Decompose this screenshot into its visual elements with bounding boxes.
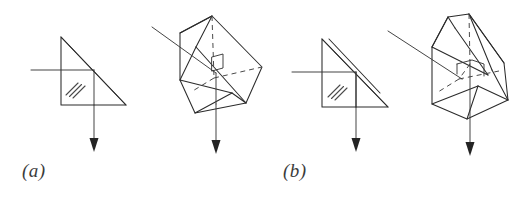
prism-b-hypotenuse	[322, 39, 388, 107]
prism-b-3d-roof-face-edge	[455, 28, 488, 75]
prism-a-3d-left-face-edge	[180, 47, 196, 80]
prism-b-3d-hidden-vertical	[469, 14, 470, 64]
prism-b-3d-ridge-front	[448, 17, 455, 28]
prism-b-3d-input-ray	[388, 31, 462, 79]
prism-a-3d-hypotenuse-face-lower	[180, 80, 232, 93]
prism-b-3d-ridge-left	[432, 17, 448, 47]
panel-a-cross-section	[31, 37, 126, 152]
panel-b-cross-section	[292, 39, 388, 152]
prism-b-3d-front-face-upper	[432, 47, 488, 75]
prism-b-3d-output-arrowhead	[466, 142, 475, 156]
panel-b-perspective	[388, 14, 508, 156]
prism-a-3d-hypotenuse-face-upper	[196, 47, 246, 103]
prism-a-glass-hatch-icon	[66, 83, 85, 98]
prism-a-3d-hidden-lower	[191, 78, 214, 92]
prism-a-3d-output-arrowhead	[212, 140, 221, 154]
prism-b-3d-normal-marker	[457, 60, 484, 76]
prism-a-3d-bottom-front-edge	[195, 93, 232, 113]
panel-a-perspective	[152, 16, 262, 154]
panel-a-caption: (a)	[22, 160, 46, 182]
prism-b-3d-hidden-lower-left	[438, 79, 459, 92]
prism-a-3d-input-ray	[152, 27, 216, 73]
prism-diagram: (a) (b)	[0, 0, 531, 199]
prism-b-glass-hatch-icon	[328, 85, 347, 100]
prism-b-3d-bottom-right	[478, 86, 508, 100]
panel-b-caption: (b)	[283, 160, 307, 182]
prism-b-3d-bottom-edge	[467, 86, 478, 119]
prism-b-roof-line	[329, 39, 380, 93]
figure-root: (a) (b)	[0, 0, 531, 199]
prism-b-output-arrowhead	[352, 138, 361, 152]
prism-b-3d-front-face-lower	[432, 86, 478, 104]
prism-a-output-arrowhead	[90, 138, 99, 152]
